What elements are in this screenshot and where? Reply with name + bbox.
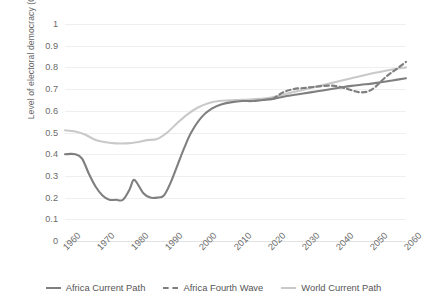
electoral-democracy-line-chart: Level of electoral democracy (0 to 1) 10… [0, 0, 427, 306]
y-tick-label: 0.9 [30, 41, 58, 51]
legend-label: World Current Path [301, 282, 381, 293]
legend-item-2[interactable]: World Current Path [281, 282, 381, 293]
y-tick-label: 0.3 [30, 171, 58, 181]
y-tick-label: 0.5 [30, 128, 58, 138]
legend-swatch-solid-line-icon [281, 287, 296, 289]
series-line-africa-current-path [65, 78, 406, 200]
y-tick-label: 0.6 [30, 106, 58, 116]
chart-legend: Africa Current PathAfrica Fourth WaveWor… [0, 282, 427, 293]
y-tick-label: 0.2 [30, 193, 58, 203]
x-axis-tick-labels: 1960197019801990200020102020203020402050… [0, 241, 427, 287]
legend-item-0[interactable]: Africa Current Path [46, 282, 146, 293]
y-tick-label: 1 [30, 19, 58, 29]
legend-swatch-solid-line-icon [46, 287, 61, 289]
y-tick-label: 0.8 [30, 62, 58, 72]
legend-item-1[interactable]: Africa Fourth Wave [163, 282, 263, 293]
y-tick-label: 0.1 [30, 214, 58, 224]
legend-label: Africa Fourth Wave [183, 282, 263, 293]
series-layer [65, 24, 406, 241]
legend-label: Africa Current Path [66, 282, 146, 293]
series-line-world-current-path [65, 67, 406, 143]
plot-area [65, 24, 406, 241]
y-tick-label: 0.7 [30, 84, 58, 94]
y-tick-label: 0.4 [30, 149, 58, 159]
legend-swatch-dashed-line-icon [163, 287, 178, 289]
